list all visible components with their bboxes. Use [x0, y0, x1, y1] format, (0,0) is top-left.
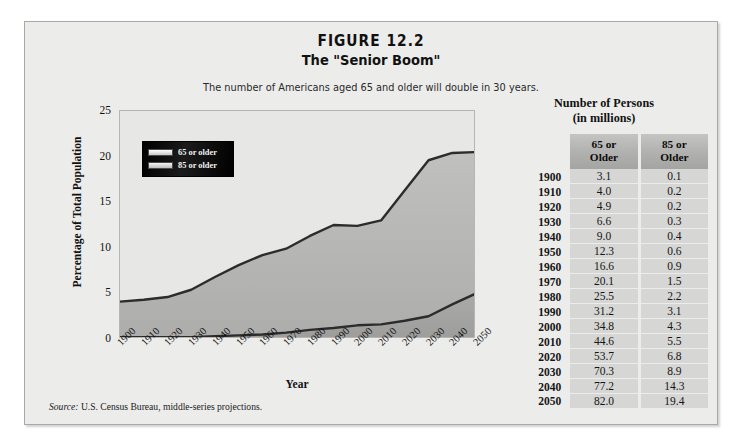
cell-year: 2040	[500, 379, 567, 394]
cell-85-or-older: 0.1	[641, 169, 708, 184]
cell-85-or-older: 0.6	[641, 244, 708, 259]
cell-year: 1940	[500, 229, 567, 244]
cell-year: 2030	[500, 364, 567, 379]
x-axis-tick-labels: 1900191019201930194019501960197019801990…	[119, 340, 475, 380]
cell-85-or-older: 5.5	[641, 334, 708, 349]
table-row: 203070.38.9	[500, 364, 708, 379]
cell-65-or-older: 6.6	[570, 214, 637, 229]
legend-item-85: 85 or older	[148, 159, 228, 172]
chart-region: Percentage of Total Population 051015202…	[33, 110, 493, 400]
table-row: 19306.60.3	[500, 214, 708, 229]
cell-year: 1960	[500, 259, 567, 274]
cell-65-or-older: 20.1	[570, 274, 637, 289]
cell-year: 1980	[500, 289, 567, 304]
table-body: 19003.10.119104.00.219204.90.219306.60.3…	[500, 169, 708, 408]
plot-area: 65 or older 85 or older	[119, 110, 475, 338]
cell-85-or-older: 0.3	[641, 214, 708, 229]
table-row: 19003.10.1	[500, 169, 708, 184]
cell-year: 1970	[500, 274, 567, 289]
table-header-85: 85 or Older	[641, 134, 708, 169]
cell-65-or-older: 9.0	[570, 229, 637, 244]
cell-65-or-older: 12.3	[570, 244, 637, 259]
table-row: 19204.90.2	[500, 199, 708, 214]
cell-85-or-older: 19.4	[641, 394, 708, 408]
table-row: 195012.30.6	[500, 244, 708, 259]
table-row: 202053.76.8	[500, 349, 708, 364]
source-note: Source: U.S. Census Bureau, middle-serie…	[49, 401, 262, 412]
y-tick-5: 5	[105, 286, 111, 298]
table-header-year	[500, 134, 567, 169]
x-axis-title: Year	[119, 378, 475, 390]
legend-label-65: 65 or older	[178, 148, 217, 157]
table-row: 199031.23.1	[500, 304, 708, 319]
cell-year: 2020	[500, 349, 567, 364]
cell-year: 2010	[500, 334, 567, 349]
cell-85-or-older: 1.5	[641, 274, 708, 289]
data-table: 65 or Older 85 or Older 19003.10.119104.…	[497, 134, 711, 408]
table-row: 197020.11.5	[500, 274, 708, 289]
cell-65-or-older: 77.2	[570, 379, 637, 394]
source-text: U.S. Census Bureau, middle-series projec…	[78, 401, 262, 412]
cell-65-or-older: 16.6	[570, 259, 637, 274]
cell-year: 2000	[500, 319, 567, 334]
cell-85-or-older: 0.9	[641, 259, 708, 274]
legend-item-65: 65 or older	[148, 146, 228, 159]
y-axis-tick-labels: 0510152025	[85, 110, 111, 338]
y-tick-15: 15	[100, 195, 112, 207]
legend-swatch-65-icon	[148, 149, 173, 156]
cell-65-or-older: 31.2	[570, 304, 637, 319]
table-title: Number of Persons (in millions)	[497, 96, 711, 126]
cell-85-or-older: 4.3	[641, 319, 708, 334]
cell-65-or-older: 44.6	[570, 334, 637, 349]
table-header-65: 65 or Older	[570, 134, 637, 169]
cell-65-or-older: 53.7	[570, 349, 637, 364]
figure-panel: FIGURE 12.2 The "Senior Boom" The number…	[24, 21, 718, 425]
cell-year: 1930	[500, 214, 567, 229]
cell-85-or-older: 0.2	[641, 199, 708, 214]
cell-year: 1990	[500, 304, 567, 319]
cell-year: 1900	[500, 169, 567, 184]
table-row: 205082.019.4	[500, 394, 708, 408]
table-title-line1: Number of Persons	[497, 96, 711, 111]
table-header-85-line1: 85 or	[641, 138, 708, 151]
table-header-85-line2: Older	[641, 151, 708, 164]
y-tick-20: 20	[100, 150, 112, 162]
cell-85-or-older: 3.1	[641, 304, 708, 319]
area-65-or-older	[120, 152, 475, 337]
table-row: 19104.00.2	[500, 184, 708, 199]
cell-85-or-older: 14.3	[641, 379, 708, 394]
cell-65-or-older: 70.3	[570, 364, 637, 379]
table-row: 200034.84.3	[500, 319, 708, 334]
table-region: Number of Persons (in millions) 65 or Ol…	[497, 34, 711, 408]
source-label: Source:	[49, 401, 78, 412]
y-tick-0: 0	[105, 332, 111, 344]
cell-year: 1910	[500, 184, 567, 199]
cell-85-or-older: 6.8	[641, 349, 708, 364]
cell-65-or-older: 34.8	[570, 319, 637, 334]
table-header-65-line1: 65 or	[570, 138, 637, 151]
cell-65-or-older: 4.0	[570, 184, 637, 199]
cell-85-or-older: 0.2	[641, 184, 708, 199]
table-title-line2: (in millions)	[497, 111, 711, 126]
y-tick-25: 25	[100, 104, 112, 116]
cell-year: 1950	[500, 244, 567, 259]
cell-65-or-older: 82.0	[570, 394, 637, 408]
table-row: 196016.60.9	[500, 259, 708, 274]
legend-swatch-85-icon	[148, 162, 173, 169]
cell-65-or-older: 4.9	[570, 199, 637, 214]
y-tick-10: 10	[100, 241, 112, 253]
table-row: 204077.214.3	[500, 379, 708, 394]
cell-year: 2050	[500, 394, 567, 408]
table-row: 198025.52.2	[500, 289, 708, 304]
cell-65-or-older: 25.5	[570, 289, 637, 304]
cell-85-or-older: 8.9	[641, 364, 708, 379]
legend-label-85: 85 or older	[178, 161, 217, 170]
cell-65-or-older: 3.1	[570, 169, 637, 184]
table-row: 201044.65.5	[500, 334, 708, 349]
cell-85-or-older: 0.4	[641, 229, 708, 244]
y-axis-title: Percentage of Total Population	[71, 122, 83, 302]
chart-legend: 65 or older 85 or older	[142, 141, 234, 177]
table-header-65-line2: Older	[570, 151, 637, 164]
table-header-row: 65 or Older 85 or Older	[500, 134, 708, 169]
cell-year: 1920	[500, 199, 567, 214]
